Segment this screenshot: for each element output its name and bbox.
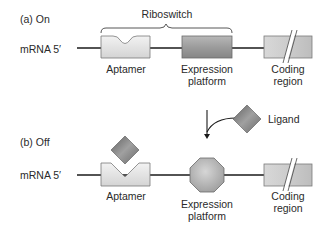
expression-label-off-1: Expression [172,198,242,210]
expression-label-off-2: platform [172,210,242,222]
arrowhead-icon [204,134,210,139]
ligand-binding-arrow [204,110,236,139]
panel-on [77,24,312,63]
riboswitch-label: Riboswitch [132,8,202,20]
ligand-free [233,105,261,133]
coding-label-on-1: Coding [258,63,318,75]
coding-label-off-2: region [258,202,318,214]
riboswitch-brace [101,24,232,33]
mrna-label-off: mRNA 5′ [20,169,61,181]
ligand-bound [111,136,139,164]
mrna-label-on: mRNA 5′ [20,43,61,55]
aptamer-on [101,36,150,58]
expression-label-on-1: Expression [172,63,242,75]
coding-label-off-1: Coding [258,190,318,202]
expression-label-on-2: platform [172,75,242,87]
panel-b-title: (b) Off [20,136,50,148]
aptamer-label-off: Aptamer [96,190,156,202]
ligand-label: Ligand [268,113,300,125]
coding-label-on-2: region [258,75,318,87]
panel-off [77,136,312,192]
aptamer-label-on: Aptamer [96,63,156,75]
panel-a-title: (a) On [20,13,50,25]
expression-platform-on [182,36,232,58]
expression-platform-off [190,158,224,192]
